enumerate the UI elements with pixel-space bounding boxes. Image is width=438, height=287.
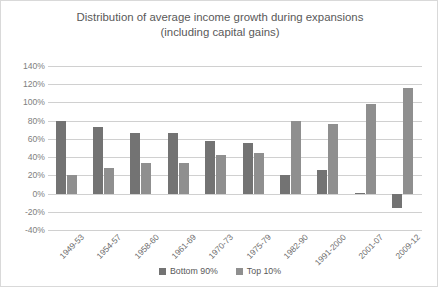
y-axis-tick-label: 20% (5, 170, 45, 180)
bar (141, 163, 151, 193)
bar (104, 168, 114, 194)
x-axis-tick-label: 1949-53 (57, 232, 86, 261)
legend-item[interactable]: Top 10% (236, 266, 281, 276)
x-axis-tick-label: 1958-60 (132, 232, 161, 261)
bar (392, 194, 402, 209)
legend-label: Bottom 90% (170, 266, 218, 276)
bar (179, 163, 189, 194)
y-axis-tick-label: 80% (5, 116, 45, 126)
bar-group (198, 66, 235, 230)
bar (130, 133, 140, 194)
bar-group (385, 66, 422, 230)
chart-legend: Bottom 90%Top 10% (1, 266, 438, 276)
bar (243, 143, 253, 194)
chart-title: Distribution of average income growth du… (1, 10, 438, 40)
bar-group (123, 66, 160, 230)
y-axis-tick-label: -40% (5, 225, 45, 235)
bar-group (48, 66, 85, 230)
y-axis-tick-label: 60% (5, 134, 45, 144)
bar-group (235, 66, 272, 230)
bar-group (160, 66, 197, 230)
x-axis-tick-label: 2001-07 (356, 232, 385, 261)
bar-group (347, 66, 384, 230)
bar (280, 175, 290, 193)
y-axis-tick-label: -20% (5, 207, 45, 217)
y-axis: 140%120%100%80%60%40%20%0%-20%-40% (1, 66, 45, 230)
bar-group (272, 66, 309, 230)
x-axis-tick-label: 1975-79 (244, 232, 273, 261)
y-axis-tick-label: 140% (5, 61, 45, 71)
bar (56, 121, 66, 194)
bar (366, 104, 376, 193)
y-axis-tick-label: 40% (5, 152, 45, 162)
bar (355, 193, 365, 194)
plot-area (48, 66, 422, 230)
bar (254, 153, 264, 193)
bar (67, 175, 77, 193)
x-axis-tick-label: 2009-12 (394, 232, 423, 261)
x-axis-tick-label: 1982-90 (281, 232, 310, 261)
bars-layer (48, 66, 422, 230)
bar-group (310, 66, 347, 230)
bar (93, 127, 103, 194)
bar-group (85, 66, 122, 230)
legend-item[interactable]: Bottom 90% (159, 266, 218, 276)
bar (403, 88, 413, 194)
bar (205, 141, 215, 194)
legend-label: Top 10% (247, 266, 281, 276)
x-axis-tick-label: 1970-73 (207, 232, 236, 261)
y-axis-tick-label: 100% (5, 97, 45, 107)
bar (216, 155, 226, 193)
bar (291, 121, 301, 194)
y-axis-tick-label: 0% (5, 189, 45, 199)
x-axis-tick-label: 1961-69 (169, 232, 198, 261)
y-axis-tick-label: 120% (5, 79, 45, 89)
x-axis-tick-label: 1954-57 (94, 232, 123, 261)
bar (168, 133, 178, 193)
x-axis-tick-label: 1991-2000 (312, 232, 347, 267)
legend-swatch-icon (159, 268, 166, 275)
chart-container: Distribution of average income growth du… (0, 0, 438, 287)
bar (317, 170, 327, 194)
bar (328, 124, 338, 193)
legend-swatch-icon (236, 268, 243, 275)
